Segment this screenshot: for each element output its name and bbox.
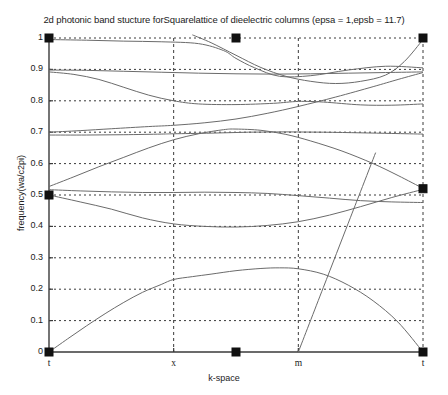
x-tick-label-2: m bbox=[286, 358, 310, 368]
y-tick-label: 0.4 bbox=[15, 220, 43, 230]
data-point-marker bbox=[232, 348, 240, 356]
band-curve bbox=[49, 40, 423, 77]
data-point-marker bbox=[45, 34, 53, 42]
plot-canvas bbox=[0, 0, 448, 395]
data-point-marker bbox=[419, 348, 427, 356]
band-curve bbox=[49, 268, 423, 352]
y-tick-label: 0.5 bbox=[15, 189, 43, 199]
y-tick-label: 0 bbox=[15, 346, 43, 356]
data-point-marker bbox=[419, 185, 427, 193]
y-tick-label: 0.3 bbox=[15, 252, 43, 262]
y-tick-label: 0.7 bbox=[15, 126, 43, 136]
y-tick-label: 0.6 bbox=[15, 158, 43, 168]
data-point-marker bbox=[419, 34, 427, 42]
band-curve bbox=[49, 190, 423, 203]
band-structure-figure: 2d photonic band stucture forSquarelatti… bbox=[0, 0, 448, 395]
x-tick-label-3: t bbox=[411, 358, 435, 368]
band-curves-group bbox=[49, 35, 423, 352]
band-curve bbox=[298, 153, 375, 352]
band-curve bbox=[49, 70, 423, 74]
y-tick-label: 0.8 bbox=[15, 95, 43, 105]
y-tick-label: 1 bbox=[15, 32, 43, 42]
x-tick-label-0: t bbox=[37, 358, 61, 368]
band-curve bbox=[49, 129, 423, 188]
x-tick-label-1: x bbox=[162, 358, 186, 368]
data-point-marker bbox=[232, 34, 240, 42]
y-tick-label: 0.9 bbox=[15, 63, 43, 73]
y-tick-label: 0.2 bbox=[15, 283, 43, 293]
y-tick-label: 0.1 bbox=[15, 315, 43, 325]
data-point-marker bbox=[45, 191, 53, 199]
data-point-marker bbox=[45, 348, 53, 356]
